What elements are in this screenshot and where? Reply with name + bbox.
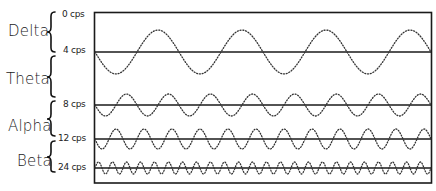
band-braces <box>47 12 55 172</box>
brace-beta-icon <box>47 141 55 172</box>
brainwave-diagram: Delta Theta Alpha Beta 0 cps 4 cps 8 cps… <box>0 0 436 191</box>
brace-delta-icon <box>47 12 55 52</box>
wave-plot <box>0 0 436 191</box>
wave-baselines <box>95 52 431 168</box>
brace-theta-icon <box>47 56 55 97</box>
brace-alpha-icon <box>47 101 55 136</box>
plot-frame <box>95 13 432 184</box>
